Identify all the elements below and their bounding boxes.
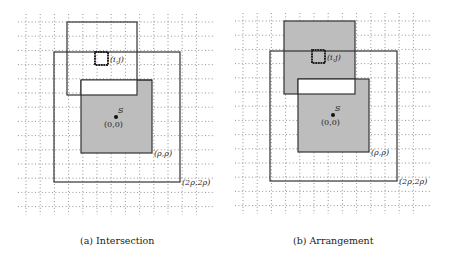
outer-corner-label: (2ρ,2ρ) (399, 177, 427, 186)
center-coord-label: (0,0) (104, 120, 123, 129)
caption-a: (a) Intersection (80, 235, 154, 246)
cell-ij-label: (i,j) (327, 53, 341, 62)
center-point-s (114, 115, 118, 119)
panel-b: (i,j) S (0,0) (ρ,ρ) (2ρ,2ρ) (235, 13, 431, 214)
figure-canvas: (i,j) S (0,0) (ρ,ρ) (2ρ,2ρ) (i,j) S (0,0… (0, 0, 450, 267)
outer-corner-label: (2ρ,2ρ) (182, 178, 210, 187)
caption-b: (b) Arrangement (293, 235, 374, 246)
intersection-gap (81, 80, 137, 95)
center-name-label: S (335, 104, 341, 113)
center-coord-label: (0,0) (321, 118, 340, 127)
panel-a: (i,j) S (0,0) (ρ,ρ) (2ρ,2ρ) (18, 14, 214, 215)
inner-corner-label: (ρ,ρ) (371, 148, 389, 157)
cell-ij-label: (i,j) (110, 55, 124, 64)
center-point-s (331, 113, 335, 117)
arrangement-gap (298, 79, 355, 94)
inner-corner-label: (ρ,ρ) (154, 149, 172, 158)
center-name-label: S (118, 106, 124, 115)
